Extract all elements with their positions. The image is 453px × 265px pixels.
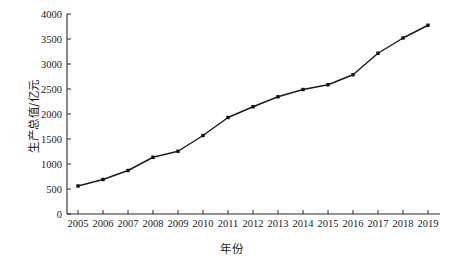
data-point-marker bbox=[201, 134, 204, 137]
y-tick-label: 4000 bbox=[41, 9, 62, 20]
x-tick-label: 2019 bbox=[418, 218, 439, 229]
chart-canvas: 05001000150020002500300035004000 2005200… bbox=[0, 0, 453, 265]
line-chart: 生产总值/亿元 05001000150020002500300035004000… bbox=[0, 0, 453, 265]
y-axis-title: 生产总值/亿元 bbox=[25, 36, 41, 196]
x-axis-title-text: 年份 bbox=[210, 242, 243, 256]
x-tick-label: 2010 bbox=[193, 218, 214, 229]
data-point-marker bbox=[326, 83, 329, 86]
x-tick-label: 2011 bbox=[218, 218, 239, 229]
x-tick-label: 2014 bbox=[293, 218, 315, 229]
y-tick-label: 2000 bbox=[41, 109, 62, 120]
y-tick-label: 1000 bbox=[41, 159, 62, 170]
x-tick-label: 2017 bbox=[368, 218, 389, 229]
x-tick-label: 2005 bbox=[68, 218, 89, 229]
data-point-marker bbox=[376, 52, 379, 55]
y-tick-label: 3000 bbox=[41, 59, 62, 70]
series-marker-group bbox=[76, 24, 429, 188]
data-point-marker bbox=[251, 105, 254, 108]
data-point-marker bbox=[226, 116, 229, 119]
data-point-marker bbox=[151, 156, 154, 159]
data-point-marker bbox=[401, 36, 404, 39]
data-point-marker bbox=[101, 178, 104, 181]
data-point-marker bbox=[426, 24, 429, 27]
x-axis-title: 年份 bbox=[0, 240, 453, 256]
x-tick-label: 2006 bbox=[93, 218, 114, 229]
x-tick-label: 2018 bbox=[393, 218, 414, 229]
y-tick-label: 1500 bbox=[41, 134, 62, 145]
data-point-marker bbox=[126, 169, 129, 172]
x-axis-tick-group: 2005200620072008200920102011201220132014… bbox=[68, 210, 439, 229]
data-point-marker bbox=[301, 88, 304, 91]
y-tick-label: 0 bbox=[57, 209, 62, 220]
data-point-marker bbox=[76, 184, 79, 187]
x-tick-label: 2016 bbox=[343, 218, 364, 229]
x-tick-label: 2012 bbox=[243, 218, 264, 229]
data-point-marker bbox=[351, 73, 354, 76]
y-tick-label: 2500 bbox=[41, 84, 62, 95]
x-tick-label: 2015 bbox=[318, 218, 339, 229]
x-tick-label: 2007 bbox=[118, 218, 139, 229]
x-tick-label: 2013 bbox=[268, 218, 289, 229]
data-point-marker bbox=[276, 95, 279, 98]
x-tick-label: 2008 bbox=[143, 218, 164, 229]
data-point-marker bbox=[176, 150, 179, 153]
x-tick-label: 2009 bbox=[168, 218, 189, 229]
y-tick-label: 500 bbox=[46, 184, 62, 195]
y-tick-label: 3500 bbox=[41, 34, 62, 45]
